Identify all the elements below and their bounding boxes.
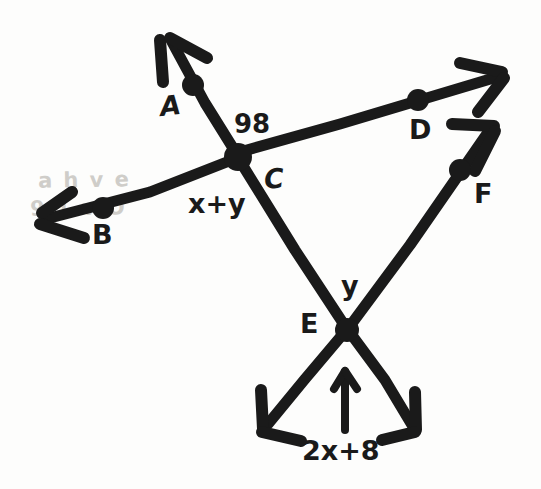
ray-E-lower-left-arrowhead-lower bbox=[262, 432, 301, 441]
geometry-diagram-canvas: a h v e 9 1 v O bbox=[0, 0, 541, 489]
point-label-D: D bbox=[409, 116, 431, 143]
point-label-B: B bbox=[92, 221, 113, 248]
ray-E-lower-right-shaft bbox=[351, 334, 412, 425]
ray-E-lower-right-arrowhead-lower bbox=[382, 432, 415, 440]
point-label-C: C bbox=[263, 164, 285, 192]
ray-C-through-B-arrowhead-bottom bbox=[40, 224, 84, 238]
ray-E-through-F-arrowhead-upper bbox=[452, 124, 494, 126]
point-label-E: E bbox=[300, 310, 318, 337]
ray-C-through-A-arrowhead-left bbox=[160, 40, 163, 82]
ray-C-through-D-shaft bbox=[240, 77, 497, 152]
point-dot-C bbox=[224, 143, 252, 171]
point-label-A: A bbox=[159, 91, 183, 120]
segment-C-to-E bbox=[240, 161, 345, 326]
diagram-strokes bbox=[0, 0, 541, 489]
ray-E-through-F-shaft bbox=[350, 131, 489, 326]
angle-label-x-plus-y: x+y bbox=[188, 190, 246, 217]
angle-label-98: 98 bbox=[234, 111, 270, 137]
point-dot-E bbox=[335, 318, 359, 342]
point-dot-A bbox=[182, 74, 204, 96]
point-dot-D bbox=[407, 89, 429, 111]
point-dot-F bbox=[449, 159, 471, 181]
angle-label-2x-plus-8: 2x+8 bbox=[302, 437, 380, 464]
ray-E-lower-left-arrowhead-upper bbox=[261, 390, 263, 429]
point-dot-B bbox=[92, 197, 114, 219]
point-label-F: F bbox=[474, 180, 492, 207]
ray-E-lower-left-shaft bbox=[268, 334, 343, 424]
angle-label-y-at-e: y bbox=[341, 272, 359, 299]
ray-C-through-D-arrowhead-upper bbox=[460, 63, 502, 72]
ray-E-lower-right-arrowhead-upper bbox=[415, 392, 416, 430]
